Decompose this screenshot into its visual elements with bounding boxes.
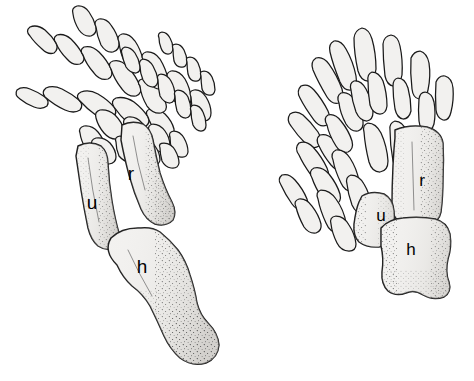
left-ulna-label: u (87, 192, 98, 213)
right-ulna-label: u (376, 206, 385, 225)
left-humerus-label: h (137, 256, 148, 277)
right-digit-8 (436, 76, 454, 120)
figure-canvas: h r u (0, 0, 474, 381)
right-humerus-label: h (406, 240, 415, 259)
right-radius-label: r (419, 171, 425, 190)
right-humerus (375, 212, 457, 304)
forelimb-comparison-illustration: h r u (0, 0, 474, 381)
right-radius (388, 120, 448, 232)
left-radius-label: r (128, 163, 135, 184)
